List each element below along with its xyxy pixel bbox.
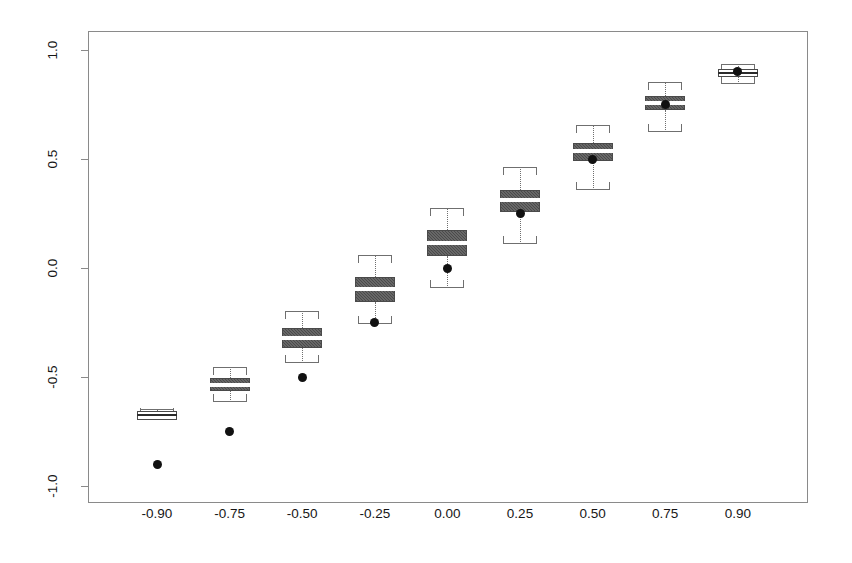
boxplot-figure: 1.00.50.0-0.5-1.0 -0.90-0.75-0.50-0.250.… xyxy=(0,0,852,563)
whisker-cap-lower xyxy=(648,124,682,132)
y-axis-tick xyxy=(81,377,88,378)
whisker-cap-lower xyxy=(213,394,247,402)
x-axis-tick-label: 0.90 xyxy=(703,506,773,521)
y-axis-tick xyxy=(81,159,88,160)
y-axis-tick-label: 0.0 xyxy=(30,260,74,276)
x-axis-tick-label: 0.25 xyxy=(485,506,555,521)
x-axis-tick-label: -0.25 xyxy=(340,506,410,521)
reference-point-marker xyxy=(516,209,525,218)
reference-point-marker xyxy=(153,460,162,469)
whisker-cap-upper xyxy=(576,125,610,133)
whisker-cap-upper xyxy=(213,367,247,375)
median-line xyxy=(137,414,177,416)
y-axis-tick-label-text: 0.0 xyxy=(44,246,60,290)
whisker-cap-upper xyxy=(503,167,537,175)
y-axis-tick-label: 0.5 xyxy=(30,151,74,167)
median-line xyxy=(500,198,540,202)
y-axis-tick xyxy=(81,268,88,269)
reference-point-marker xyxy=(588,155,597,164)
y-axis-tick-label-text: 0.5 xyxy=(44,137,60,181)
y-axis-tick-label-text: -0.5 xyxy=(44,355,60,399)
reference-point-marker xyxy=(443,264,452,273)
whisker-cap-upper xyxy=(285,311,319,319)
y-axis-label-group xyxy=(28,0,72,16)
whisker-cap-lower xyxy=(576,182,610,190)
x-axis-tick-label: 0.00 xyxy=(412,506,482,521)
x-axis-tick-label: 0.50 xyxy=(558,506,628,521)
x-axis-tick-label: -0.90 xyxy=(122,506,192,521)
x-axis-tick-label: -0.75 xyxy=(195,506,265,521)
median-line xyxy=(355,287,395,291)
y-axis-tick-label: -0.5 xyxy=(30,369,74,385)
y-axis-tick-label-text: 1.0 xyxy=(44,28,60,72)
whisker-cap-upper xyxy=(358,255,392,263)
whisker-cap-lower xyxy=(285,355,319,363)
reference-point-marker xyxy=(661,100,670,109)
y-axis-tick-label-text: -1.0 xyxy=(44,464,60,508)
whisker-cap-upper xyxy=(430,208,464,216)
median-line xyxy=(427,241,467,245)
reference-point-marker xyxy=(298,373,307,382)
median-line xyxy=(210,383,250,387)
y-axis-tick-label: -1.0 xyxy=(30,478,74,494)
whisker-cap-lower xyxy=(503,236,537,244)
whisker-cap-upper xyxy=(648,82,682,90)
y-axis-tick xyxy=(81,486,88,487)
median-line xyxy=(282,336,322,340)
whisker-cap-lower xyxy=(430,280,464,288)
x-axis-tick-label: -0.50 xyxy=(267,506,337,521)
y-axis-tick-label: 1.0 xyxy=(30,42,74,58)
x-axis-tick-label: 0.75 xyxy=(630,506,700,521)
median-line xyxy=(573,149,613,153)
y-axis-tick xyxy=(81,50,88,51)
